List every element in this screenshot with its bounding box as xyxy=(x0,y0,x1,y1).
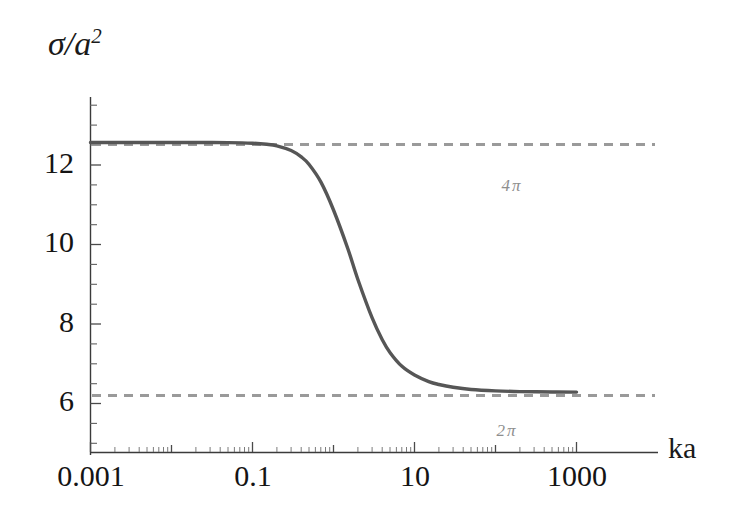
y-axis-title-main: σ/a xyxy=(48,25,91,62)
y-tick-label-12: 12 xyxy=(12,148,74,178)
two-pi-coefficient: 2 xyxy=(496,421,505,440)
y-tick-label-10: 10 xyxy=(12,227,74,257)
y-axis-title-exponent: 2 xyxy=(91,24,102,48)
four-pi-coefficient: 4 xyxy=(501,176,510,195)
scattering-cross-section-figure: σ/a2 ka 12 10 8 6 0.001 0.1 10 1000 4π 2… xyxy=(0,0,747,532)
x-minor-ticks xyxy=(115,447,573,452)
y-axis-title: σ/a2 xyxy=(48,26,102,61)
x-axis-title: ka xyxy=(668,433,696,463)
two-pi-annotation: 2π xyxy=(471,422,541,439)
x-tick-label-0.1: 0.1 xyxy=(183,461,323,491)
x-tick-label-10: 10 xyxy=(345,461,485,491)
y-tick-label-8: 8 xyxy=(12,307,74,337)
four-pi-annotation: 4π xyxy=(476,177,546,194)
two-pi-symbol: π xyxy=(505,421,516,440)
four-pi-symbol: π xyxy=(510,176,521,195)
plot-canvas xyxy=(0,0,747,532)
x-tick-label-1000: 1000 xyxy=(507,461,647,491)
x-tick-label-0.001: 0.001 xyxy=(21,461,161,491)
y-tick-label-6: 6 xyxy=(12,386,74,416)
